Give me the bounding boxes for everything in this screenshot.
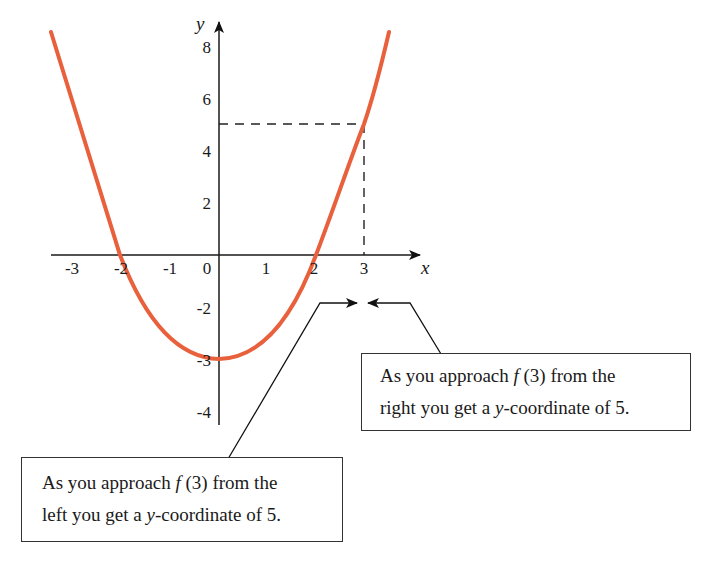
x-axis-label: x bbox=[420, 257, 430, 278]
y-tick: 2 bbox=[203, 194, 212, 213]
y-tick-labels: 8 6 4 2 -2 -3 -4 bbox=[197, 38, 212, 422]
y-tick: -3 bbox=[197, 351, 211, 370]
x-tick: 3 bbox=[360, 259, 369, 278]
right-approach-callout: As you approach f (3) from the right you… bbox=[361, 353, 691, 431]
y-tick: -2 bbox=[197, 299, 211, 318]
x-tick-labels: -3 -2 -1 0 1 2 3 bbox=[65, 259, 368, 278]
callout-line-1: As you approach f (3) from the bbox=[380, 360, 676, 392]
y-tick: 6 bbox=[203, 90, 212, 109]
x-tick: -1 bbox=[163, 259, 177, 278]
reference-lines bbox=[219, 124, 364, 255]
right-callout-arrow bbox=[368, 303, 441, 354]
left-callout-arrow bbox=[228, 303, 357, 459]
x-tick: -3 bbox=[65, 259, 79, 278]
x-tick: 1 bbox=[262, 259, 271, 278]
x-tick: 0 bbox=[203, 259, 212, 278]
left-approach-callout: As you approach f (3) from the left you … bbox=[21, 457, 343, 542]
x-tick: -2 bbox=[114, 259, 128, 278]
callout-line-2: right you get a y-coordinate of 5. bbox=[380, 392, 676, 424]
x-tick: 2 bbox=[310, 259, 319, 278]
y-tick: -4 bbox=[197, 403, 212, 422]
y-axis-label: y bbox=[194, 13, 205, 34]
parabola-curve bbox=[51, 32, 389, 359]
y-tick: 4 bbox=[203, 142, 212, 161]
callout-line-2: left you get a y-coordinate of 5. bbox=[42, 499, 328, 531]
callout-line-1: As you approach f (3) from the bbox=[42, 467, 328, 499]
y-tick: 8 bbox=[203, 38, 212, 57]
